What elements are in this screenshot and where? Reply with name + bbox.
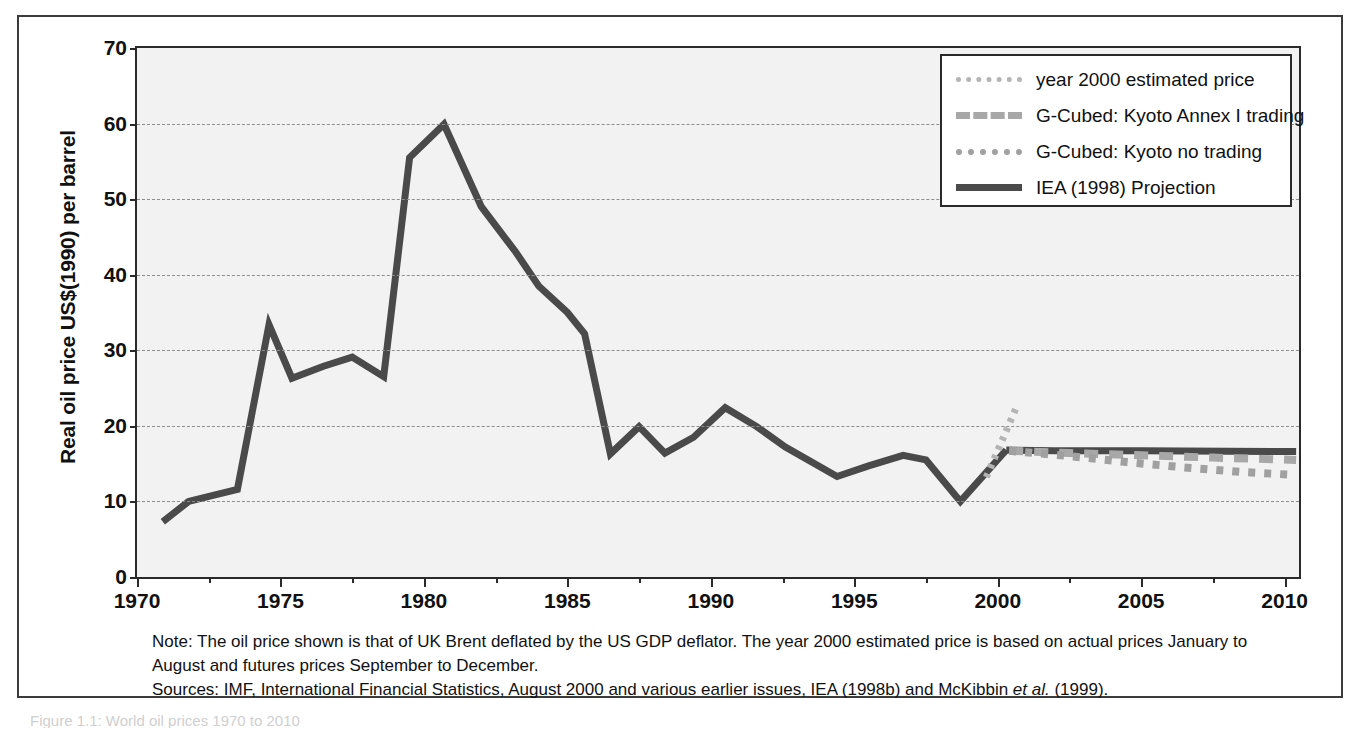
legend-entry: year 2000 estimated price	[942, 62, 1290, 98]
x-tick-label: 1985	[544, 589, 591, 613]
x-tick-label: 2005	[1118, 589, 1165, 613]
x-tick-minor-mark	[639, 577, 641, 583]
legend-swatch-icon	[956, 110, 1022, 122]
y-tick-mark	[130, 124, 137, 126]
x-tick-label: 2000	[974, 589, 1021, 613]
legend-entry: IEA (1998) Projection	[942, 170, 1290, 206]
x-tick-mark	[854, 577, 856, 587]
x-tick-mark	[1285, 577, 1287, 587]
x-tick-minor-mark	[1069, 577, 1071, 583]
series-line	[1006, 450, 1296, 452]
sources-suffix: (1999).	[1050, 680, 1109, 699]
x-tick-minor-mark	[352, 577, 354, 583]
x-tick-minor-mark	[926, 577, 928, 583]
x-tick-label: 1980	[401, 589, 448, 613]
sources-italic: et al.	[1013, 680, 1050, 699]
series-line	[163, 124, 1007, 522]
y-tick-label: 0	[115, 565, 127, 589]
x-tick-mark	[137, 577, 139, 587]
legend-label: G-Cubed: Kyoto Annex I trading	[1036, 105, 1304, 127]
x-tick-mark	[424, 577, 426, 587]
y-tick-label: 20	[104, 414, 127, 438]
gridline	[137, 426, 1299, 427]
x-tick-label: 1970	[114, 589, 161, 613]
figure-notes: Note: The oil price shown is that of UK …	[152, 630, 1262, 702]
gridline	[137, 275, 1299, 276]
y-tick-label: 30	[104, 338, 127, 362]
x-tick-mark	[998, 577, 1000, 587]
legend-label: year 2000 estimated price	[1036, 69, 1255, 91]
y-tick-mark	[130, 48, 137, 50]
legend-entry: G-Cubed: Kyoto no trading	[942, 134, 1290, 170]
legend-swatch-icon	[956, 146, 1022, 158]
figure-frame: Real oil price US$(1990) per barrel 0102…	[17, 15, 1343, 698]
x-tick-mark	[711, 577, 713, 587]
sources-text: Sources: IMF, International Financial St…	[152, 678, 1262, 702]
legend-label: G-Cubed: Kyoto no trading	[1036, 141, 1262, 163]
x-tick-minor-mark	[209, 577, 211, 583]
y-tick-label: 70	[104, 36, 127, 60]
note-text: Note: The oil price shown is that of UK …	[152, 630, 1262, 678]
y-tick-mark	[130, 350, 137, 352]
x-tick-minor-mark	[783, 577, 785, 583]
y-tick-label: 10	[104, 489, 127, 513]
series-line	[986, 404, 1018, 477]
chart-legend: year 2000 estimated priceG-Cubed: Kyoto …	[940, 54, 1292, 207]
gridline	[137, 501, 1299, 502]
x-tick-minor-mark	[1213, 577, 1215, 583]
x-tick-mark	[1141, 577, 1143, 587]
y-tick-label: 40	[104, 263, 127, 287]
legend-swatch-icon	[956, 74, 1022, 86]
x-tick-mark	[567, 577, 569, 587]
x-tick-label: 1975	[257, 589, 304, 613]
x-tick-label: 1995	[831, 589, 878, 613]
y-tick-mark	[130, 199, 137, 201]
x-tick-label: 2010	[1261, 589, 1308, 613]
gridline	[137, 350, 1299, 351]
sources-prefix: Sources: IMF, International Financial St…	[152, 680, 1013, 699]
x-tick-minor-mark	[496, 577, 498, 583]
x-tick-label: 1990	[687, 589, 734, 613]
y-axis-title: Real oil price US$(1990) per barrel	[56, 62, 80, 532]
chart-stage: Real oil price US$(1990) per barrel 0102…	[19, 17, 1345, 700]
legend-entry: G-Cubed: Kyoto Annex I trading	[942, 98, 1290, 134]
y-tick-mark	[130, 275, 137, 277]
y-tick-mark	[130, 426, 137, 428]
y-tick-label: 60	[104, 112, 127, 136]
x-tick-mark	[280, 577, 282, 587]
legend-label: IEA (1998) Projection	[1036, 177, 1216, 199]
y-tick-mark	[130, 501, 137, 503]
figure-caption-partial: Figure 1.1: World oil prices 1970 to 201…	[30, 712, 930, 728]
legend-swatch-icon	[956, 182, 1022, 194]
y-tick-mark	[130, 577, 137, 579]
y-tick-label: 50	[104, 187, 127, 211]
